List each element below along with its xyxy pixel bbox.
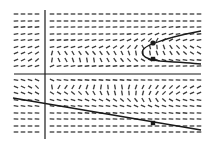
slope-dash	[106, 40, 111, 41]
slope-dash	[35, 34, 40, 35]
slope-dash	[14, 106, 19, 107]
slope-dash	[28, 106, 33, 107]
slope-dash	[21, 40, 26, 41]
slope-dash	[92, 40, 97, 41]
slope-dash	[162, 27, 167, 28]
slope-dash	[64, 80, 69, 81]
slope-dash	[115, 85, 116, 90]
slope-dash	[28, 34, 33, 35]
slope-dash	[64, 66, 69, 67]
slope-dash	[94, 58, 95, 63]
slope-dash	[183, 60, 188, 61]
slope-dash	[183, 106, 188, 107]
slope-dash	[28, 40, 33, 41]
slope-field-diagram	[0, 0, 212, 148]
slope-dash	[162, 113, 167, 114]
slope-dash	[148, 113, 153, 114]
slope-dash	[14, 100, 19, 101]
slope-dash	[155, 113, 160, 114]
slope-dash	[21, 34, 26, 35]
slope-dash	[21, 106, 26, 107]
slope-dash	[127, 113, 132, 114]
slope-field-plot	[0, 0, 212, 148]
lower-square-marker	[151, 121, 155, 125]
slope-dash	[57, 80, 62, 81]
slope-dash	[52, 85, 53, 90]
slope-dash	[99, 40, 104, 41]
slope-dash	[122, 85, 123, 90]
slope-dash	[122, 91, 123, 96]
slope-dash	[197, 40, 202, 41]
slope-dash	[87, 58, 88, 63]
slope-dash	[134, 34, 139, 35]
slope-dash	[52, 58, 53, 63]
slope-dash	[150, 51, 151, 56]
slope-dash	[71, 106, 76, 107]
middle-square-marker	[151, 57, 155, 61]
slope-dash	[141, 113, 146, 114]
slope-dash	[14, 40, 19, 41]
slope-dash	[197, 100, 202, 101]
slope-dash	[50, 106, 55, 107]
slope-dash	[136, 51, 137, 56]
slope-dash	[155, 27, 160, 28]
upper-circle-marker	[150, 40, 155, 45]
slope-dash	[101, 85, 102, 90]
slope-dash	[92, 106, 97, 107]
slope-dash	[190, 60, 195, 61]
slope-dash	[120, 113, 125, 114]
slope-dash	[78, 106, 83, 107]
slope-dash	[169, 113, 174, 114]
slope-dash	[14, 66, 19, 67]
slope-dash	[190, 34, 195, 35]
slope-dash	[14, 34, 19, 35]
slope-dash	[57, 66, 62, 67]
slope-dash	[78, 40, 83, 41]
slope-dash	[85, 106, 90, 107]
slope-dash	[71, 66, 76, 67]
slope-dash	[169, 27, 174, 28]
slope-dash	[190, 106, 195, 107]
slope-dash	[134, 113, 139, 114]
slope-dash	[35, 106, 40, 107]
slope-dash	[85, 40, 90, 41]
